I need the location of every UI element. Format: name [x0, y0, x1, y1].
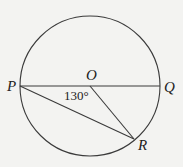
label-o: O [86, 67, 97, 83]
circle-diagram: O P Q R 130° [0, 0, 183, 167]
angle-label-por: 130° [64, 88, 89, 103]
label-p: P [6, 78, 16, 94]
label-r: R [137, 137, 147, 153]
label-q: Q [164, 79, 175, 95]
radius-or [90, 86, 134, 139]
